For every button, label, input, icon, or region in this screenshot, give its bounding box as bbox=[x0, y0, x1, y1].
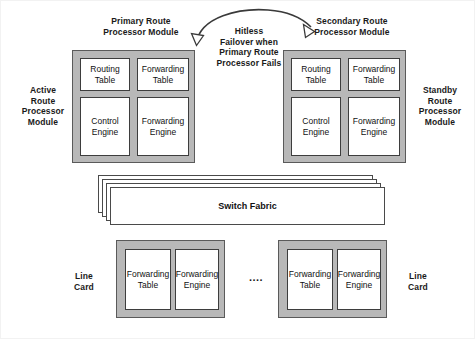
line-card-2-forwarding-engine[interactable]: Forwarding Engine bbox=[337, 249, 381, 310]
primary-route-processor-module[interactable]: Routing Table Forwarding Table Control E… bbox=[72, 50, 195, 163]
hitless-failover-note: Hitless Failover when Primary Route Proc… bbox=[205, 26, 293, 68]
router-redundancy-diagram: Primary Route Processor Module Secondary… bbox=[0, 0, 476, 340]
secondary-forwarding-table[interactable]: Forwarding Table bbox=[348, 58, 400, 91]
primary-forwarding-table[interactable]: Forwarding Table bbox=[137, 58, 189, 91]
secondary-route-processor-module[interactable]: Routing Table Forwarding Table Control E… bbox=[283, 50, 406, 163]
line-card-1[interactable]: Forwarding Table Forwarding Engine bbox=[116, 240, 225, 318]
primary-routing-table[interactable]: Routing Table bbox=[80, 58, 130, 91]
primary-module-title: Primary Route Processor Module bbox=[84, 16, 198, 37]
line-card-2[interactable]: Forwarding Table Forwarding Engine bbox=[278, 240, 387, 318]
primary-control-engine[interactable]: Control Engine bbox=[80, 97, 130, 156]
standby-route-processor-label: Standby Route Processor Module bbox=[410, 85, 470, 127]
line-card-2-forwarding-table[interactable]: Forwarding Table bbox=[287, 249, 333, 310]
secondary-routing-table[interactable]: Routing Table bbox=[291, 58, 341, 91]
switch-fabric[interactable]: Switch Fabric bbox=[110, 187, 385, 225]
line-card-1-label: Line Card bbox=[62, 271, 106, 292]
active-route-processor-label: Active Route Processor Module bbox=[14, 85, 72, 127]
line-card-1-forwarding-engine[interactable]: Forwarding Engine bbox=[175, 249, 219, 310]
primary-forwarding-engine[interactable]: Forwarding Engine bbox=[137, 97, 189, 156]
secondary-control-engine[interactable]: Control Engine bbox=[291, 97, 341, 156]
secondary-forwarding-engine[interactable]: Forwarding Engine bbox=[348, 97, 400, 156]
line-card-1-forwarding-table[interactable]: Forwarding Table bbox=[125, 249, 171, 310]
secondary-module-title: Secondary Route Processor Module bbox=[293, 16, 411, 37]
line-card-ellipsis: .... bbox=[240, 272, 272, 283]
line-card-2-label: Line Card bbox=[396, 271, 440, 292]
